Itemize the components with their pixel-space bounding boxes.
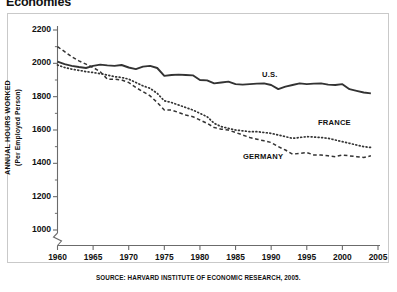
x-tick-label: 1990 <box>254 252 288 262</box>
y-tick-label: 1800 <box>17 91 51 101</box>
y-tick-label: 2000 <box>17 57 51 67</box>
x-tick-label: 1980 <box>183 252 217 262</box>
y-axis-title-main: ANNUAL HOURS WORKED <box>3 80 12 175</box>
x-tick-label: 2005 <box>361 252 395 262</box>
chart-frame <box>7 13 389 263</box>
x-tick-label: 1995 <box>290 252 324 262</box>
x-tick-label: 1970 <box>112 252 146 262</box>
x-tick-label: 1965 <box>76 252 110 262</box>
x-tick-label: 2000 <box>325 252 359 262</box>
series-label-france: FRANCE <box>318 118 351 127</box>
series-label-us: U.S. <box>262 70 278 79</box>
y-tick-label: 1200 <box>17 191 51 201</box>
x-tick-label: 1975 <box>147 252 181 262</box>
y-tick-label: 1600 <box>17 124 51 134</box>
y-tick-label: 1400 <box>17 157 51 167</box>
x-tick-label: 1960 <box>41 252 75 262</box>
x-tick-label: 1985 <box>219 252 253 262</box>
page-title: Economies <box>6 0 71 9</box>
y-tick-label: 1000 <box>17 224 51 234</box>
y-tick-label: 2200 <box>17 24 51 34</box>
source-note: SOURCE: HARVARD INSTITUTE OF ECONOMIC RE… <box>96 274 301 281</box>
series-label-germany: GERMANY <box>243 152 283 161</box>
